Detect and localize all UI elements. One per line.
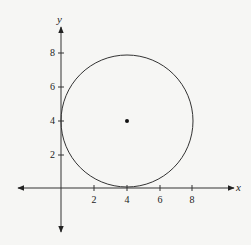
x-tick-label: 2: [92, 194, 97, 205]
x-tick-label: 4: [125, 194, 130, 205]
y-tick-label: 8: [50, 47, 55, 58]
x-axis-label: x: [235, 181, 241, 193]
coordinate-plane: 2 4 6 8 2 4 6 8 x y: [0, 0, 251, 245]
y-tick-label: 4: [50, 115, 55, 126]
center-point: [125, 119, 129, 123]
y-tick-label: 2: [50, 149, 55, 160]
x-tick-label: 6: [158, 194, 163, 205]
y-tick-label: 6: [50, 81, 55, 92]
x-tick-label: 8: [190, 194, 195, 205]
y-axis-label: y: [56, 13, 62, 25]
